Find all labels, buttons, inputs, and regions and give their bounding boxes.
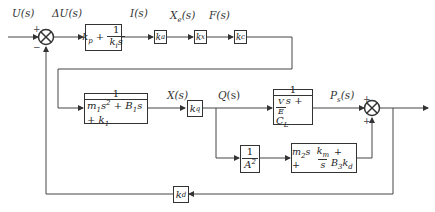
sign-plus-2a: +: [363, 94, 371, 104]
signal-x: X(s): [167, 89, 188, 101]
signal-f: F(s): [209, 9, 230, 21]
signal-ps: Ps(s): [330, 89, 354, 104]
sign-minus-1: −: [33, 42, 41, 52]
signal-q: Q(s): [218, 89, 240, 101]
sign-plus-2b: +: [363, 116, 371, 126]
load-dynamics-block: m2s + kms + B3kd: [291, 143, 357, 173]
sign-plus-1: +: [33, 24, 41, 34]
gain-kd-block: kd: [173, 186, 189, 203]
connection-lines: [0, 0, 435, 212]
summing-junction-1: [39, 30, 54, 45]
pressure-dynamics-block: 1VEs + CL: [273, 89, 313, 125]
signal-u: U(s): [12, 7, 34, 19]
gain-ka-block: ka: [154, 30, 167, 44]
signal-xe: Xe(s): [170, 9, 195, 24]
pi-controller-block: kp + 1kis: [85, 24, 122, 51]
area-inverse-block: 1A2: [240, 145, 260, 173]
gain-kq-block: kq: [187, 100, 203, 117]
signal-i: I(s): [130, 7, 148, 19]
gain-kx-block: kx: [194, 30, 207, 44]
mass-spring-block: 1m1s2 + B1s + k1: [84, 93, 148, 124]
signal-delta-u: ΔU(s): [52, 7, 82, 19]
gain-kc-block: kc: [234, 30, 247, 44]
